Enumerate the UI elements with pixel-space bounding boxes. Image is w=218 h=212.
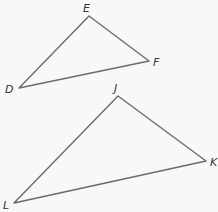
vertex-label-l: L <box>3 199 9 212</box>
vertex-label-k: K <box>210 156 218 169</box>
triangles-figure: D E F J K L <box>0 0 218 212</box>
triangle-def <box>19 16 149 88</box>
vertex-label-f: F <box>153 56 160 69</box>
vertex-label-e: E <box>83 2 90 15</box>
vertex-label-d: D <box>5 83 13 96</box>
triangle-jkl <box>14 96 206 203</box>
vertex-label-j: J <box>112 82 117 95</box>
diagram-canvas: D E F J K L <box>0 0 218 212</box>
